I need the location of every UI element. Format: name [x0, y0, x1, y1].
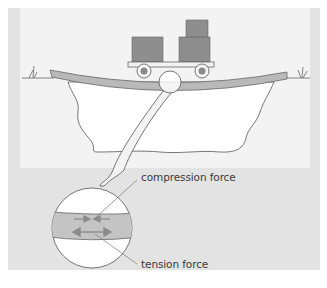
compression-force-label: compression force — [141, 171, 236, 183]
wheel-right-icon — [195, 64, 209, 78]
wheel-left-icon — [137, 64, 151, 78]
diagram-canvas — [0, 0, 327, 288]
box-left — [132, 37, 163, 62]
inset-beam-section — [40, 211, 140, 240]
box-right-top — [186, 20, 208, 37]
box-right-bottom — [179, 37, 210, 62]
magnifier-small-circle — [159, 71, 181, 93]
beam-diagram: compression force tension force — [0, 0, 327, 288]
tension-force-label: tension force — [141, 258, 208, 270]
